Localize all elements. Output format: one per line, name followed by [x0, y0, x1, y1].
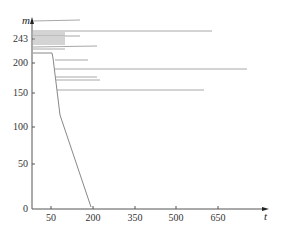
- branch-lines: [33, 20, 247, 90]
- x-tick-label-50: 50: [36, 213, 66, 223]
- y-tick-label-150: 150: [0, 88, 28, 98]
- y-tick-label-200: 200: [0, 58, 28, 68]
- x-tick-label-200: 200: [78, 213, 108, 223]
- y-tick-label-100: 100: [0, 122, 28, 132]
- y-tick-label-50: 50: [0, 159, 28, 169]
- main-curve: [33, 53, 91, 207]
- x-axis-title: t: [264, 210, 267, 222]
- chart-canvas: [0, 0, 284, 243]
- x-tick-label-350: 350: [120, 213, 150, 223]
- y-axis-title: m: [22, 14, 30, 26]
- x-tick-label-500: 500: [161, 213, 191, 223]
- x-tick-label-650: 650: [203, 213, 233, 223]
- y-tick-label-243: 243: [0, 34, 28, 44]
- y-tick-label-0: 0: [0, 204, 28, 214]
